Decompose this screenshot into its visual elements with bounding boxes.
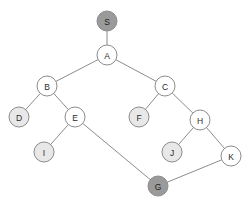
graph-node-d[interactable]: D bbox=[9, 107, 29, 127]
graph-canvas: SABCDEFHIJKG bbox=[0, 0, 252, 205]
graph-edge-k-g bbox=[167, 160, 222, 182]
node-circle-k[interactable] bbox=[221, 146, 241, 166]
edge-layer bbox=[26, 31, 225, 182]
graph-edge-b-d bbox=[26, 93, 41, 109]
node-circle-f[interactable] bbox=[129, 107, 149, 127]
node-circle-g[interactable] bbox=[148, 176, 168, 196]
node-circle-j[interactable] bbox=[162, 142, 182, 162]
graph-node-j[interactable]: J bbox=[162, 142, 182, 162]
node-circle-c[interactable] bbox=[155, 76, 175, 96]
graph-edge-b-e bbox=[54, 93, 69, 109]
graph-edge-c-f bbox=[145, 94, 158, 110]
graph-node-f[interactable]: F bbox=[129, 107, 149, 127]
node-circle-s[interactable] bbox=[97, 11, 117, 31]
graph-node-a[interactable]: A bbox=[97, 45, 117, 65]
graph-node-c[interactable]: C bbox=[155, 76, 175, 96]
node-layer: SABCDEFHIJKG bbox=[9, 11, 241, 196]
graph-svg: SABCDEFHIJKG bbox=[0, 0, 252, 205]
graph-node-b[interactable]: B bbox=[37, 76, 57, 96]
graph-edge-a-b bbox=[56, 60, 98, 82]
graph-edge-e-g bbox=[83, 123, 151, 179]
graph-edge-h-k bbox=[207, 128, 225, 149]
graph-node-e[interactable]: E bbox=[65, 107, 85, 127]
graph-node-i[interactable]: I bbox=[34, 142, 54, 162]
node-circle-a[interactable] bbox=[97, 45, 117, 65]
node-circle-e[interactable] bbox=[65, 107, 85, 127]
graph-node-k[interactable]: K bbox=[221, 146, 241, 166]
graph-edge-a-c bbox=[116, 60, 156, 82]
graph-node-h[interactable]: H bbox=[190, 110, 210, 130]
node-circle-d[interactable] bbox=[9, 107, 29, 127]
graph-node-g[interactable]: G bbox=[148, 176, 168, 196]
graph-edge-c-h bbox=[172, 93, 193, 113]
graph-edge-e-i bbox=[51, 124, 69, 144]
graph-node-s[interactable]: S bbox=[97, 11, 117, 31]
node-circle-h[interactable] bbox=[190, 110, 210, 130]
graph-edge-h-j bbox=[179, 128, 194, 145]
node-circle-b[interactable] bbox=[37, 76, 57, 96]
node-circle-i[interactable] bbox=[34, 142, 54, 162]
